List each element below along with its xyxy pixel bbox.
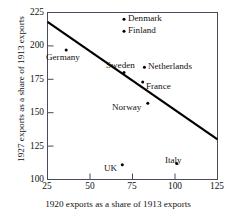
x-tick-125: 125	[202, 181, 232, 191]
point-label-netherlands: Netherlands	[148, 61, 192, 71]
point-label-denmark: Denmark	[128, 13, 162, 23]
x-tick-100: 100	[160, 181, 190, 191]
marker-sweden	[123, 71, 126, 74]
point-label-norway: Norway	[112, 102, 141, 112]
x-tick-25: 25	[32, 181, 62, 191]
x-tick-50: 50	[75, 181, 105, 191]
point-label-sweden: Sweden	[106, 60, 135, 70]
point-label-italy: Italy	[165, 155, 182, 165]
point-label-finland: Finland	[128, 25, 156, 35]
marker-germany	[65, 48, 68, 51]
plot-frame	[48, 13, 218, 180]
marker-finland	[123, 30, 126, 33]
marker-france	[141, 81, 144, 84]
x-axis-title: 1920 exports as a share of 1913 exports	[0, 199, 236, 209]
marker-netherlands	[143, 66, 146, 69]
marker-uk	[121, 163, 124, 166]
marker-denmark	[123, 18, 126, 21]
y-axis-title: 1927 exports as a share of 1913 exports	[16, 14, 26, 164]
x-tick-75: 75	[117, 181, 147, 191]
point-label-uk: UK	[104, 163, 117, 173]
marker-norway	[146, 102, 149, 105]
point-label-france: France	[146, 81, 171, 91]
point-label-germany: Germany	[46, 52, 80, 62]
scatter-chart-figure: 225 200 175 150 125 100 25 50 75 100 125…	[0, 0, 236, 218]
